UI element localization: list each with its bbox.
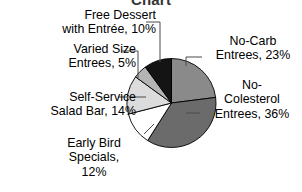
callout-label-free-dessert: Free Dessert with Entrée, 10% — [8, 8, 156, 37]
callout-label-self-service: Self-Service Salad Bar, 14% — [4, 90, 136, 119]
callout-label-no-colesterol: No- Colesterol Entrees, 36% — [204, 78, 300, 121]
pie-slices — [127, 59, 216, 148]
pie-chart-figure: Chart Free Dessert with Entrée, 10% Vari… — [0, 0, 302, 192]
callout-label-early-bird: Early Bird Specials, 12% — [48, 136, 140, 179]
callout-label-no-carb: No-Carb Entrees, 23% — [206, 34, 300, 63]
callout-label-varied-size: Varied Size Entrees, 5% — [8, 42, 136, 71]
